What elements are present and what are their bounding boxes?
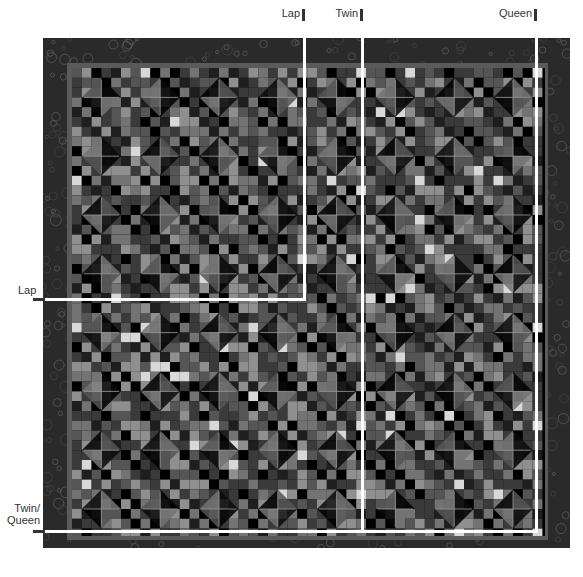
tick-twin-queen-left (33, 530, 45, 533)
patchwork-center (72, 68, 545, 536)
size-label-twin-left: Twin/ (0, 502, 40, 514)
tick-lap-top (302, 9, 305, 21)
size-label-twin-top: Twin (320, 7, 358, 19)
size-label-queen-left: Queen (0, 514, 40, 526)
twin-vertical-line (361, 21, 364, 533)
quilt (43, 38, 570, 548)
queen-vertical-line (535, 21, 538, 533)
tick-queen-top (534, 9, 537, 21)
size-label-lap-left: Lap (18, 284, 36, 296)
size-label-lap-top: Lap (262, 7, 300, 19)
lap-horizontal-line (45, 298, 306, 301)
tick-lap-left (33, 298, 45, 301)
twin-queen-horizontal-line (45, 530, 538, 533)
size-label-queen-top: Queen (488, 7, 532, 19)
lap-vertical-line (303, 21, 306, 300)
tick-twin-top (360, 9, 363, 21)
